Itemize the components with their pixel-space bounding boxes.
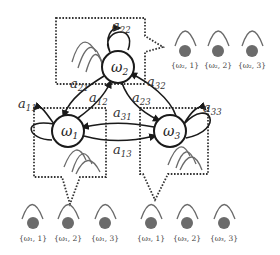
label-a22: a22 bbox=[112, 18, 131, 35]
emission-w2-3: {ω₂, 3} bbox=[238, 31, 266, 70]
svg-text:{ω₂, 2}: {ω₂, 2} bbox=[204, 61, 232, 70]
label-a33: a33 bbox=[203, 100, 222, 117]
label-a31: a31 bbox=[113, 105, 132, 122]
label-a32: a32 bbox=[147, 74, 166, 91]
emission-curves-w1 bbox=[64, 150, 100, 174]
svg-text:{ω₂, 1}: {ω₂, 1} bbox=[171, 61, 199, 70]
svg-text:{ω₁, 2}: {ω₁, 2} bbox=[54, 234, 82, 243]
state-w3: ω3 bbox=[154, 115, 186, 147]
hmm-diagram: ω2 ω1 ω3 a22 a21 a12 a23 a32 a11 a33 a31… bbox=[0, 0, 280, 255]
svg-text:{ω₃, 1}: {ω₃, 1} bbox=[137, 234, 165, 243]
edge-a13 bbox=[84, 136, 154, 141]
emission-w1-3: {ω₁, 3} bbox=[91, 205, 119, 244]
svg-text:{ω₃, 3}: {ω₃, 3} bbox=[210, 234, 238, 243]
svg-text:{ω₁, 3}: {ω₁, 3} bbox=[91, 234, 119, 243]
emission-w1-1: {ω₁, 1} bbox=[19, 205, 47, 244]
emission-curves-w3 bbox=[168, 147, 202, 170]
emission-w3-3: {ω₃, 3} bbox=[210, 205, 238, 244]
svg-text:{ω₁, 1}: {ω₁, 1} bbox=[19, 234, 47, 243]
label-a11: a11 bbox=[18, 96, 37, 113]
emission-w3-2: {ω₃, 2} bbox=[173, 205, 201, 244]
emission-w2-2: {ω₂, 2} bbox=[204, 31, 232, 70]
emission-w2-1: {ω₂, 1} bbox=[171, 31, 199, 70]
emission-w1-2: {ω₁, 2} bbox=[54, 205, 82, 244]
svg-text:{ω₂, 3}: {ω₂, 3} bbox=[238, 61, 266, 70]
svg-text:{ω₃, 2}: {ω₃, 2} bbox=[173, 234, 201, 243]
edge-a31 bbox=[84, 123, 154, 127]
label-a13: a13 bbox=[113, 142, 132, 159]
emission-curves-w2 bbox=[72, 42, 104, 72]
label-a23: a23 bbox=[132, 90, 151, 107]
state-w1: ω1 bbox=[52, 115, 84, 147]
label-a21: a21 bbox=[70, 76, 89, 93]
state-w2: ω2 bbox=[102, 51, 134, 83]
emission-w3-1: {ω₃, 1} bbox=[137, 205, 165, 244]
